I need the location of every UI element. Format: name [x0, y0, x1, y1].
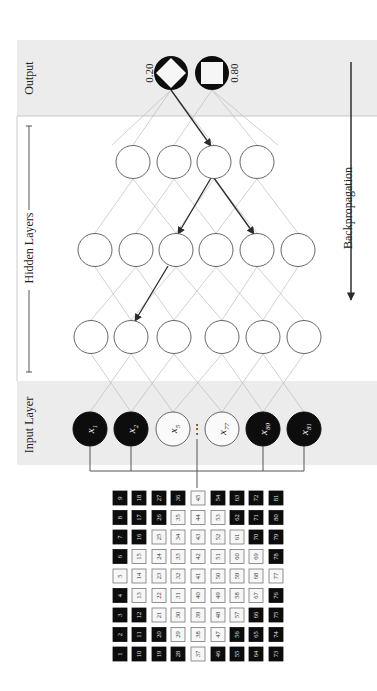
hidden-node [197, 146, 231, 179]
grid-cell-value: 37 [194, 650, 201, 657]
grid-cell-value: 18 [135, 495, 142, 502]
grid-cell-value: 72 [252, 495, 259, 502]
output-value-diamond: 0.20 [143, 63, 155, 83]
input-node [246, 412, 280, 446]
grid-cell-value: 11 [135, 631, 142, 637]
grid-cell-value: 76 [272, 592, 279, 599]
grid-cell-value: 80 [272, 514, 279, 521]
grid-cell-value: 40 [194, 592, 201, 599]
hidden-node [78, 234, 112, 267]
grid-cell-value: 62 [233, 514, 240, 521]
grid-cell-value: 27 [155, 494, 162, 501]
grid-cell-value: 8 [116, 516, 123, 519]
hidden-node [114, 321, 148, 354]
grid-cell-value: 68 [252, 573, 259, 580]
grid-cell-value: 22 [155, 592, 162, 599]
hidden-node [116, 146, 150, 179]
grid-cell-value: 24 [155, 553, 162, 560]
grid-cell-value: 60 [233, 553, 240, 560]
grid-cell-value: 78 [272, 553, 279, 560]
grid-cell-value: 5 [116, 574, 123, 577]
grid-cell-value: 56 [233, 631, 240, 638]
grid-cell-value: 63 [233, 495, 240, 502]
grid-cell-value: 35 [174, 514, 181, 521]
grid-cell-value: 48 [214, 612, 221, 619]
grid-cell-value: 3 [116, 613, 123, 616]
hidden-node [246, 321, 280, 354]
hidden-node [240, 146, 274, 179]
grid-cell-value: 65 [252, 631, 259, 638]
hidden-node [74, 321, 108, 354]
grid-cell-value: 58 [233, 592, 240, 599]
grid-cell-value: 77 [272, 572, 279, 579]
hidden-band [17, 116, 377, 381]
input-grid: 1234567891011121314151617181920212223242… [113, 491, 283, 661]
grid-cell-value: 15 [135, 553, 142, 560]
backpropagation-label: Backpropagation [341, 167, 355, 249]
grid-cell-value: 10 [135, 651, 142, 658]
grid-cell-value: 57 [233, 611, 240, 618]
grid-cell-value: 46 [214, 650, 221, 657]
grid-cell-value: 51 [214, 553, 221, 560]
grid-cell-value: 19 [155, 651, 162, 658]
grid-cell-value: 21 [155, 612, 162, 619]
grid-cell-value: 23 [155, 573, 162, 580]
grid-cell-value: 33 [174, 553, 181, 560]
output-layer-label: Output [22, 61, 36, 95]
output-value-square: 0.80 [228, 63, 240, 83]
grid-cell-value: 42 [194, 553, 201, 560]
hidden-node [157, 146, 191, 179]
grid-cell-value: 28 [174, 651, 181, 658]
grid-cell-value: 61 [233, 534, 240, 541]
grid-cell-value: 39 [194, 612, 201, 619]
grid-cell-value: 30 [174, 612, 181, 619]
ellipsis-icon: ⋮ [191, 422, 203, 436]
hidden-node [199, 234, 233, 267]
hidden-layers-label: Hidden Layers [22, 212, 36, 283]
grid-cell-value: 64 [252, 650, 259, 657]
grid-cell-value: 17 [135, 514, 142, 521]
grid-cell-value: 31 [174, 592, 181, 599]
grid-cell-value: 34 [174, 533, 181, 540]
grid-cell-value: 49 [214, 592, 221, 599]
grid-cell-value: 25 [155, 534, 162, 541]
input-layer-label: Input Layer [22, 397, 36, 453]
grid-cell-value: 44 [194, 514, 201, 521]
grid-cell-value: 53 [214, 514, 221, 521]
grid-cell-value: 79 [272, 534, 279, 541]
grid-cell-value: 2 [116, 633, 123, 636]
input-node [287, 412, 321, 446]
grid-cell-value: 55 [233, 651, 240, 658]
grid-cell-value: 71 [252, 514, 259, 521]
grid-cell-value: 70 [252, 534, 259, 541]
hidden-node [240, 234, 274, 267]
grid-cell-value: 43 [194, 534, 201, 541]
hidden-node [119, 234, 153, 267]
grid-cell-value: 26 [155, 514, 162, 521]
grid-cell-value: 54 [214, 494, 221, 501]
hidden-node [287, 321, 321, 354]
grid-cell-value: 36 [174, 494, 181, 501]
grid-cell-value: 13 [135, 592, 142, 599]
grid-cell-value: 14 [135, 572, 142, 579]
grid-cell-value: 32 [174, 573, 181, 580]
square-icon [201, 62, 223, 84]
grid-cell-value: 73 [272, 651, 279, 658]
network-diagram: 0.200.80x1x2x5x77x80x81⋮OutputHidden Lay… [0, 0, 377, 691]
hidden-node [281, 234, 315, 267]
grid-cell-value: 81 [272, 495, 279, 502]
grid-cell-value: 16 [135, 533, 142, 540]
grid-cell-value: 69 [252, 553, 259, 560]
input-node [205, 412, 239, 446]
grid-cell-value: 20 [155, 631, 162, 638]
grid-cell-value: 47 [214, 631, 221, 638]
grid-cell-value: 1 [116, 652, 123, 655]
grid-cell-value: 67 [252, 592, 259, 599]
grid-cell-value: 29 [174, 631, 181, 638]
grid-cell-value: 59 [233, 573, 240, 580]
grid-cell-value: 45 [194, 495, 201, 502]
grid-cell-value: 52 [214, 534, 221, 541]
hidden-node [205, 321, 239, 354]
grid-cell-value: 9 [116, 496, 123, 499]
grid-cell-value: 12 [135, 612, 142, 619]
